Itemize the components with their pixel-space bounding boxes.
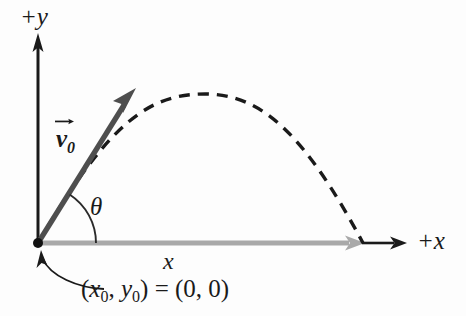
origin-x-symbol: x [89,275,100,302]
origin-leader-arrowhead [37,250,48,268]
figure-canvas [0,0,466,316]
initial-velocity-vector-arrowhead [113,88,136,113]
horizontal-distance-label: x [163,249,174,273]
x-axis-label: +x [417,228,445,253]
velocity-symbol-wrapper: v [56,126,67,151]
velocity-subscript: 0 [67,139,75,156]
origin-coordinates-caption: (x0, y0) = (0, 0) [81,276,229,301]
y-axis-label: +y [20,4,48,29]
origin-comma: , [108,275,121,302]
vector-overarrow-icon [55,116,74,125]
projectile-motion-figure: +y +x θ x v 0 (x0, y0) = (0, 0) [0,0,466,316]
origin-equals-sign: = [148,275,175,302]
origin-y-subscript: 0 [132,288,140,305]
origin-x-subscript: 0 [100,288,108,305]
origin-point-dot [33,238,43,248]
initial-velocity-label: v 0 [56,126,75,151]
origin-y-symbol: y [121,275,132,302]
velocity-symbol: v [56,125,67,152]
launch-angle-label: θ [90,194,102,219]
origin-value: (0, 0) [175,275,229,302]
initial-velocity-vector-line [38,105,124,243]
